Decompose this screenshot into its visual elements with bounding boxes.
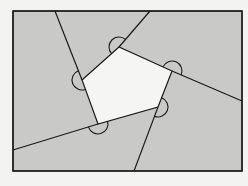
pentagon-exterior-angles-diagram — [0, 0, 248, 186]
